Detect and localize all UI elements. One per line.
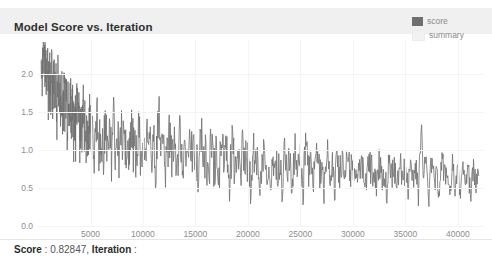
gridline-horizontal — [38, 112, 484, 113]
gridline-vertical — [91, 40, 92, 226]
page-title: Model Score vs. Iteration — [14, 21, 153, 33]
y-axis-tick-label: 1.5 — [21, 108, 33, 117]
gridline-horizontal — [38, 226, 484, 227]
gridline-horizontal — [38, 74, 484, 75]
legend-label: score — [427, 17, 448, 26]
chart-legend: score summary — [412, 16, 480, 44]
x-axis-tick-label: 5000 — [81, 230, 100, 239]
legend-item-score[interactable]: score — [412, 16, 480, 27]
y-axis-tick-label: 2.0 — [21, 70, 33, 79]
x-axis-tick-label: 10000 — [131, 230, 155, 239]
score-line-series — [38, 40, 484, 226]
legend-swatch-icon — [412, 17, 423, 26]
x-axis-tick-label: 25000 — [289, 230, 313, 239]
series-line-score — [41, 42, 479, 206]
x-axis-tick-label: 20000 — [236, 230, 260, 239]
y-axis-tick-label: 1.0 — [21, 146, 33, 155]
iteration-label: Iteration — [92, 244, 131, 255]
chart-area: 0.00.51.01.52.05000100001500020000250003… — [0, 36, 492, 232]
score-label: Score — [14, 244, 42, 255]
score-value: 0.82847 — [50, 244, 86, 255]
status-bar: Score : 0.82847, Iteration : — [14, 243, 137, 256]
chart-panel: Model Score vs. Iteration 0.00.51.01.52.… — [0, 0, 492, 260]
score-separator: : — [42, 244, 50, 255]
gridline-vertical — [300, 40, 301, 226]
gridline-vertical — [248, 40, 249, 226]
gridline-horizontal — [38, 150, 484, 151]
x-axis-tick-label: 35000 — [393, 230, 417, 239]
gridline-vertical — [143, 40, 144, 226]
y-axis-tick-label: 0.0 — [21, 222, 33, 231]
gridline-horizontal — [38, 188, 484, 189]
gridline-vertical — [458, 40, 459, 226]
gridline-vertical — [405, 40, 406, 226]
y-axis-tick-label: 0.5 — [21, 184, 33, 193]
x-axis-tick-label: 40000 — [446, 230, 470, 239]
gridline-vertical — [195, 40, 196, 226]
x-axis-tick-label: 15000 — [184, 230, 208, 239]
footer-divider — [0, 239, 492, 240]
legend-label: summary — [429, 31, 464, 40]
iteration-separator: : — [131, 244, 137, 255]
legend-item-summary[interactable]: summary — [412, 30, 480, 41]
legend-swatch-icon — [412, 30, 425, 41]
plot-area: 0.00.51.01.52.05000100001500020000250003… — [38, 40, 484, 226]
x-axis-tick-label: 30000 — [341, 230, 365, 239]
gridline-vertical — [353, 40, 354, 226]
